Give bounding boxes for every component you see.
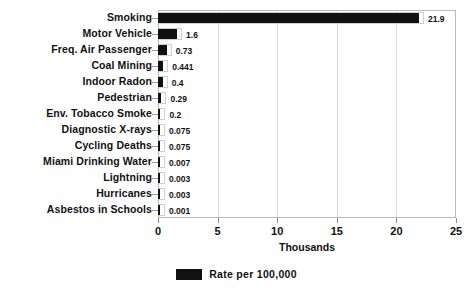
x-axis-tick-label: 5 (198, 225, 238, 237)
category-label: Freq. Air Passenger (0, 44, 152, 55)
bar (158, 13, 419, 23)
category-axis-labels: SmokingMotor VehicleFreq. Air PassengerC… (0, 10, 152, 218)
x-axis-tick-label: 10 (257, 225, 297, 237)
bar-value-label: 0.007 (169, 158, 190, 168)
bar (158, 173, 160, 183)
category-label: Env. Tobacco Smoke (0, 108, 152, 119)
legend-swatch-rate-per-100000 (176, 269, 202, 280)
bar-value-label: 0.29 (170, 94, 187, 104)
bar-value-label: 0.003 (169, 190, 190, 200)
category-label: Motor Vehicle (0, 28, 152, 39)
bar-value-label: 1.6 (186, 30, 198, 40)
bar (158, 141, 160, 151)
legend-label-rate-per-100000: Rate per 100,000 (209, 268, 297, 280)
category-label: Miami Drinking Water (0, 156, 152, 167)
chart-legend: Rate per 100,000 (0, 268, 473, 280)
bar (158, 189, 160, 199)
bar-value-label: 0.075 (169, 126, 190, 136)
bar-value-label: 0.001 (169, 206, 190, 216)
bar (158, 125, 160, 135)
gridline (396, 11, 397, 217)
category-label: Cycling Deaths (0, 140, 152, 151)
category-label: Diagnostic X-rays (0, 124, 152, 135)
x-axis-tick (396, 218, 397, 223)
x-axis-tick-label: 25 (436, 225, 473, 237)
x-axis-tick (456, 218, 457, 223)
x-axis-title: Thousands (158, 241, 456, 253)
x-axis-tick (158, 218, 159, 223)
bar-value-label: 0.73 (176, 46, 193, 56)
plot-area (158, 10, 456, 218)
bar (158, 29, 177, 39)
bar (158, 109, 160, 119)
x-axis-tick (277, 218, 278, 223)
category-label: Lightning (0, 172, 152, 183)
bar (158, 205, 160, 215)
category-label: Indoor Radon (0, 76, 152, 87)
bar (158, 77, 163, 87)
gridline (277, 11, 278, 217)
category-label: Pedestrian (0, 92, 152, 103)
bar-value-label: 0.4 (172, 78, 184, 88)
bar-value-label: 0.2 (169, 110, 181, 120)
gridline (337, 11, 338, 217)
x-axis-tick (337, 218, 338, 223)
x-axis-tick (218, 218, 219, 223)
bar (158, 45, 167, 55)
gridline (218, 11, 219, 217)
bar-value-label: 0.441 (172, 62, 193, 72)
bar-value-label: 0.003 (169, 174, 190, 184)
bar-value-label: 21.9 (428, 14, 445, 24)
x-axis-tick-label: 0 (138, 225, 178, 237)
bar-value-label: 0.075 (169, 142, 190, 152)
category-label: Hurricanes (0, 188, 152, 199)
bar (158, 157, 160, 167)
x-axis-tick-label: 20 (376, 225, 416, 237)
category-label: Smoking (0, 12, 152, 23)
bar (158, 93, 161, 103)
category-label: Asbestos in Schools (0, 204, 152, 215)
bar-chart: SmokingMotor VehicleFreq. Air PassengerC… (0, 0, 473, 292)
category-label: Coal Mining (0, 60, 152, 71)
bar (158, 61, 163, 71)
x-axis-tick-label: 15 (317, 225, 357, 237)
